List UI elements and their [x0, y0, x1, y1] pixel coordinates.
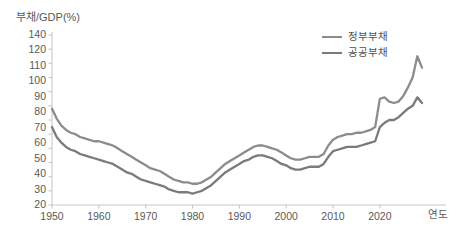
x-axis-title: 연도 [428, 206, 448, 221]
y-tick-label: 40 [16, 167, 46, 179]
y-tick-label: 120 [16, 43, 46, 55]
y-tick-label: 140 [16, 28, 46, 40]
y-tick-label: 80 [16, 105, 46, 117]
y-tick-label: 20 [16, 198, 46, 210]
series-lines [52, 56, 422, 193]
y-tick-label: 70 [16, 121, 46, 133]
x-tick-label: 2020 [360, 210, 400, 222]
x-tick-label: 1970 [126, 210, 166, 222]
y-tick-label: 50 [16, 152, 46, 164]
y-tick-label: 90 [16, 90, 46, 102]
series-line-public-debt [52, 97, 422, 193]
y-tick-label: 100 [16, 74, 46, 86]
legend-item[interactable]: 정부부채 [322, 30, 388, 43]
chart-legend: 정부부채공공부채 [322, 30, 388, 62]
plot-area [0, 0, 468, 240]
x-tick-label: 2010 [313, 210, 353, 222]
legend-label: 정부부채 [348, 30, 388, 43]
debt-gdp-line-chart: 부채/GDP(%) 1401201101009080706050403020 1… [0, 0, 468, 240]
x-tick-label: 1950 [32, 210, 72, 222]
x-tick-label: 1990 [219, 210, 259, 222]
x-tick-label: 1980 [173, 210, 213, 222]
y-tick-label: 60 [16, 136, 46, 148]
legend-line-swatch [322, 52, 342, 54]
legend-label: 공공부채 [348, 46, 388, 59]
x-tick-label: 1960 [79, 210, 119, 222]
legend-line-swatch [322, 36, 342, 38]
x-tick-label: 2000 [266, 210, 306, 222]
y-tick-label: 30 [16, 183, 46, 195]
y-tick-label: 110 [16, 59, 46, 71]
legend-item[interactable]: 공공부채 [322, 46, 388, 59]
